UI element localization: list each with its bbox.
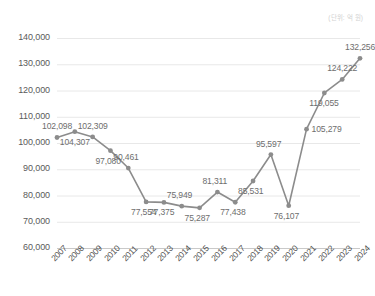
y-axis-tick-label: 120,000 <box>2 85 50 95</box>
y-axis-tick-label: 100,000 <box>2 137 50 147</box>
y-axis-tick-label: 140,000 <box>2 32 50 42</box>
data-point-label: 102,098 <box>42 121 72 131</box>
data-point-marker <box>90 135 95 140</box>
data-point-marker <box>108 148 113 153</box>
data-point-label: 90,461 <box>113 152 138 162</box>
data-point-marker <box>215 190 220 195</box>
data-point-label: 105,279 <box>312 124 342 134</box>
data-point-label: 104,307 <box>60 137 90 147</box>
y-axis-tick-label: 130,000 <box>2 58 50 68</box>
data-point-label: 75,287 <box>185 213 210 223</box>
data-point-label: 124,222 <box>327 63 357 73</box>
y-axis-tick-label: 90,000 <box>2 163 50 173</box>
data-point-marker <box>251 179 256 184</box>
data-point-label: 76,107 <box>274 211 299 221</box>
data-point-label: 85,531 <box>238 186 263 196</box>
data-point-marker <box>126 166 131 171</box>
data-point-label: 119,055 <box>309 98 338 108</box>
data-point-label: 75,949 <box>167 190 192 200</box>
data-point-label: 132,256 <box>345 42 375 52</box>
data-point-label: 77,375 <box>149 207 174 217</box>
data-point-marker <box>286 203 291 208</box>
data-point-label: 95,597 <box>256 139 281 149</box>
data-point-label: 77,438 <box>220 207 245 217</box>
y-axis-tick-label: 70,000 <box>2 216 50 226</box>
data-point-marker <box>233 200 238 205</box>
data-point-marker <box>144 200 149 205</box>
data-point-marker <box>304 127 309 132</box>
data-point-marker <box>322 91 327 96</box>
data-point-marker <box>162 200 167 205</box>
data-point-marker <box>197 205 202 210</box>
data-point-marker <box>179 204 184 209</box>
y-axis-tick-label: 80,000 <box>2 190 50 200</box>
y-axis-tick-label: 60,000 <box>2 242 50 252</box>
data-point-marker <box>72 129 77 134</box>
data-point-marker <box>268 152 273 157</box>
data-point-marker <box>340 77 345 82</box>
data-point-label: 102,309 <box>78 121 108 131</box>
data-point-marker <box>55 135 60 140</box>
data-point-marker <box>358 56 363 61</box>
y-axis-tick-label: 110,000 <box>2 111 50 121</box>
data-point-label: 81,311 <box>202 176 227 186</box>
